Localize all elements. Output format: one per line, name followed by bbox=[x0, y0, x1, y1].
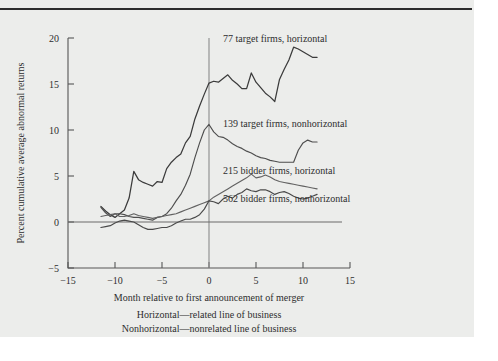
y-axis-title: Percent cumulative average abnormal retu… bbox=[15, 62, 26, 243]
chart-figure: −505101520−15−10−505101577 target firms,… bbox=[0, 10, 474, 337]
y-tick-label: 5 bbox=[54, 171, 59, 182]
x-tick-label: −5 bbox=[157, 275, 168, 286]
series-label-3: 562 bidder firms, nonhorizontal bbox=[223, 193, 350, 204]
x-tick-label: −10 bbox=[107, 275, 123, 286]
annotation-1: Nonhorizontal—nonrelated line of busines… bbox=[122, 323, 297, 334]
x-tick-label: −15 bbox=[60, 275, 76, 286]
y-tick-label: 10 bbox=[49, 125, 59, 136]
annotation-0: Horizontal—related line of business bbox=[137, 309, 282, 320]
x-tick-label: 15 bbox=[345, 275, 355, 286]
y-tick-label: 20 bbox=[49, 33, 59, 44]
series-label-1: 139 target firms, nonhorizontal bbox=[223, 118, 347, 129]
x-tick-label: 10 bbox=[298, 275, 308, 286]
x-axis-title: Month relative to first announcement of … bbox=[114, 292, 305, 303]
y-tick-label: 0 bbox=[54, 217, 59, 228]
series-label-0: 77 target firms, horizontal bbox=[223, 33, 327, 44]
line-chart: −505101520−15−10−505101577 target firms,… bbox=[0, 10, 474, 337]
x-tick-label: 5 bbox=[254, 275, 259, 286]
series-label-2: 215 bidder firms, horizontal bbox=[223, 165, 335, 176]
figure-page: −505101520−15−10−505101577 target firms,… bbox=[0, 0, 498, 361]
y-tick-label: −5 bbox=[48, 263, 59, 274]
y-tick-label: 15 bbox=[49, 79, 59, 90]
x-tick-label: 0 bbox=[207, 275, 212, 286]
